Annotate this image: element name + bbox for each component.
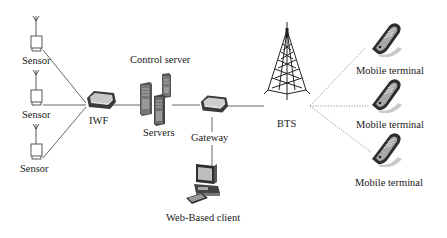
sensor-label-3: Sensor bbox=[20, 164, 49, 175]
sensor-icon bbox=[24, 14, 48, 54]
mobile-terminal-label-2: Mobile terminal bbox=[356, 120, 424, 131]
router-icon bbox=[198, 92, 230, 116]
mobile-terminal-node-2 bbox=[368, 77, 404, 117]
edge-bts-mobile1 bbox=[310, 48, 365, 106]
web-client-label: Web-Based client bbox=[166, 213, 240, 224]
gateway-node bbox=[198, 92, 230, 120]
network-diagram: Sensor Sensor bbox=[0, 0, 447, 238]
web-client-node bbox=[184, 160, 228, 210]
router-icon bbox=[84, 88, 118, 112]
mobile-phone-icon bbox=[368, 21, 404, 57]
mobile-phone-icon bbox=[368, 77, 404, 113]
sensor-node-3 bbox=[24, 122, 48, 166]
control-server-label: Control server bbox=[130, 55, 190, 66]
desktop-computer-icon bbox=[184, 160, 228, 206]
sensor-node-2 bbox=[24, 68, 48, 112]
cell-tower-icon bbox=[262, 22, 312, 102]
sensor-label-1: Sensor bbox=[22, 56, 51, 67]
bts-label: BTS bbox=[277, 119, 296, 130]
mobile-phone-icon bbox=[368, 131, 404, 167]
iwf-label: IWF bbox=[89, 116, 108, 127]
bts-node bbox=[262, 22, 312, 106]
iwf-node bbox=[84, 88, 118, 116]
servers-label: Servers bbox=[143, 128, 175, 139]
servers-node bbox=[136, 72, 180, 132]
sensor-node-1 bbox=[24, 14, 48, 58]
mobile-terminal-label-3: Mobile terminal bbox=[355, 178, 423, 189]
sensor-icon bbox=[24, 122, 48, 162]
sensor-label-2: Sensor bbox=[22, 110, 51, 121]
gateway-label: Gateway bbox=[191, 133, 228, 144]
server-rack-icon bbox=[136, 72, 180, 128]
sensor-icon bbox=[24, 68, 48, 108]
mobile-terminal-node-1 bbox=[368, 21, 404, 61]
mobile-terminal-node-3 bbox=[368, 131, 404, 171]
mobile-terminal-label-1: Mobile terminal bbox=[356, 66, 424, 77]
